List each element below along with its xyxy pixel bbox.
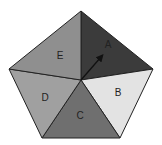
section-a xyxy=(81,11,153,80)
label-a: A xyxy=(105,39,112,50)
section-e xyxy=(9,11,81,80)
pentagon-spinner: A B C D E xyxy=(0,0,162,145)
label-e: E xyxy=(57,50,64,61)
label-b: B xyxy=(115,87,122,98)
label-c: C xyxy=(76,110,83,121)
label-d: D xyxy=(41,92,48,103)
